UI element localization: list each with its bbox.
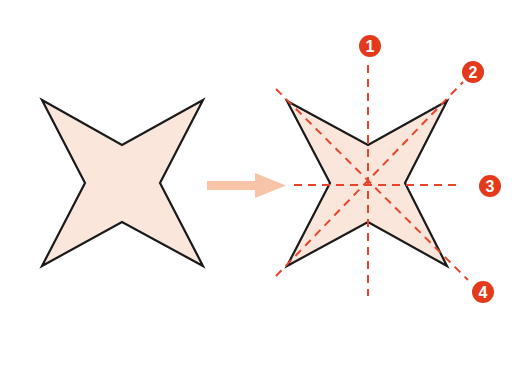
badge-1-label: 1 [366,38,375,55]
badge-2-label: 2 [469,64,478,81]
badge-4-label: 4 [479,284,488,301]
badge-1: 1 [359,35,381,57]
badge-3: 3 [479,175,501,197]
arrow-icon [207,173,286,198]
badge-3-label: 3 [486,178,495,195]
badge-2: 2 [462,61,484,83]
left-star-shape [42,100,203,266]
badge-4: 4 [472,281,494,303]
symmetry-diagram: 1 2 3 4 [0,0,532,374]
